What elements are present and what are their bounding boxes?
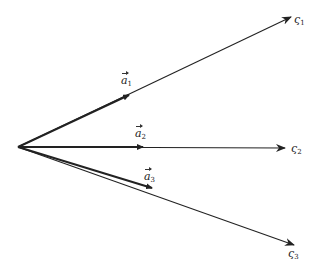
- vector-label-subscript: 2: [142, 133, 146, 141]
- ray-label-subscript: 1: [300, 19, 304, 27]
- vector-label-subscript: 1: [128, 80, 132, 88]
- ray-zeta3-arrow: [18, 147, 294, 245]
- vector-label-a3: a3: [144, 171, 155, 184]
- vector-a3-arrow: [18, 147, 152, 188]
- vector-label-base: a: [135, 128, 142, 139]
- vector-a1-arrow: [18, 95, 129, 147]
- vector-label-a2: a2: [135, 128, 146, 141]
- vector-label-base: a: [121, 75, 128, 86]
- ray-label-subscript: 3: [294, 253, 298, 261]
- vector-label-a1: a1: [121, 75, 132, 88]
- vector-label-base: a: [144, 171, 151, 182]
- ray-label-zeta2: ς2: [291, 143, 302, 156]
- ray-label-zeta1: ς1: [294, 14, 305, 27]
- diagram-canvas: [0, 0, 316, 268]
- vector-label-subscript: 3: [151, 176, 155, 184]
- ray-label-subscript: 2: [297, 148, 301, 156]
- ray-label-zeta3: ς3: [288, 248, 299, 261]
